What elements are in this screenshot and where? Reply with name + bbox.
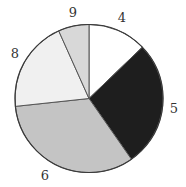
slice-label-8: 8 <box>11 46 19 61</box>
slice-label-5: 5 <box>170 101 178 116</box>
slice-label-4: 4 <box>118 10 126 25</box>
slice-label-9: 9 <box>69 5 77 20</box>
slice-label-6: 6 <box>41 168 49 183</box>
pie-slices <box>15 25 163 173</box>
pie-chart: 4 5 6 8 9 <box>0 0 186 187</box>
